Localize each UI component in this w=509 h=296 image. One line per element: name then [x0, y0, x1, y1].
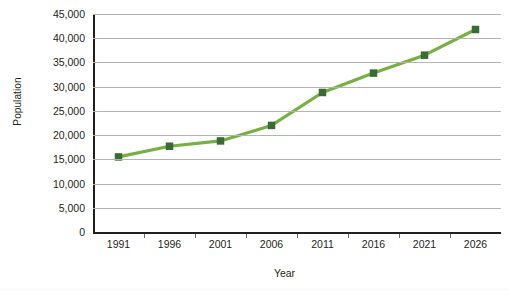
- scan-artifact: [0, 288, 509, 291]
- y-axis-tick-label: 5,000: [33, 203, 85, 213]
- x-axis-title-text: Year: [214, 267, 295, 279]
- gridline: [93, 208, 501, 209]
- y-axis-tick-label: 20,000: [33, 130, 85, 140]
- gridline: [93, 38, 501, 39]
- data-point-marker: 2006: 22,000: [268, 122, 276, 130]
- x-axis-title: Year: [0, 267, 509, 279]
- y-axis-title: Population: [12, 57, 23, 147]
- y-axis-tick-label: 0: [33, 227, 85, 237]
- y-axis-tick-labels: 05,00010,00015,00020,00025,00030,00035,0…: [33, 0, 85, 296]
- y-axis-tick-label: 25,000: [33, 106, 85, 116]
- series-line: [119, 30, 476, 157]
- gridline: [93, 159, 501, 160]
- data-point-marker: 2016: 32,800: [370, 69, 378, 77]
- data-point-marker: 2021: 36,500: [421, 51, 429, 59]
- data-point-marker: 2026: 41,800: [472, 26, 480, 34]
- series-population: 1991: 15,5001996: 17,7002001: 18,8002006…: [93, 14, 501, 232]
- gridline: [93, 111, 501, 112]
- y-axis-tick-label: 45,000: [33, 9, 85, 19]
- y-axis-tick-label: 35,000: [33, 57, 85, 67]
- y-axis-tick-label: 15,000: [33, 154, 85, 164]
- y-axis-tick-label: 40,000: [33, 33, 85, 43]
- gridline: [93, 14, 501, 15]
- y-axis-tick-label: 10,000: [33, 179, 85, 189]
- x-axis-tick-labels: 19911996200120062011201620212026: [93, 238, 501, 254]
- gridline: [93, 87, 501, 88]
- gridline: [93, 184, 501, 185]
- gridline: [93, 62, 501, 63]
- y-axis-tick-label: 30,000: [33, 82, 85, 92]
- plot-area: 1991: 15,5001996: 17,7002001: 18,8002006…: [93, 14, 501, 232]
- data-point-marker: 2001: 18,800: [217, 137, 225, 145]
- population-line-chart: Population 05,00010,00015,00020,00025,00…: [0, 0, 509, 296]
- x-axis-tick-label: 2026: [446, 238, 506, 250]
- gridline: [93, 135, 501, 136]
- data-point-marker: 2011: 28,800: [319, 89, 327, 97]
- data-point-marker: 1996: 17,700: [166, 143, 174, 151]
